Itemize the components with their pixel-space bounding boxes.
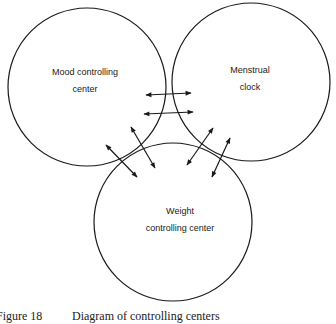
mood-label-line1: Mood controlling bbox=[40, 64, 130, 81]
menstrual-label-line2: clock bbox=[205, 79, 295, 96]
weight-label-line2: controlling center bbox=[130, 220, 230, 237]
mood-label-line2: center bbox=[40, 81, 130, 98]
mood-menstrual-arrows bbox=[144, 93, 193, 114]
mood-label: Mood controlling center bbox=[40, 64, 130, 98]
figure-number: Figure 18 bbox=[0, 309, 42, 324]
weight-label: Weight controlling center bbox=[130, 203, 230, 237]
menstrual-label: Menstrual clock bbox=[205, 62, 295, 96]
weight-label-line1: Weight bbox=[130, 203, 230, 220]
caption-text: Diagram of controlling centers bbox=[72, 309, 220, 324]
menstrual-label-line1: Menstrual bbox=[205, 62, 295, 79]
